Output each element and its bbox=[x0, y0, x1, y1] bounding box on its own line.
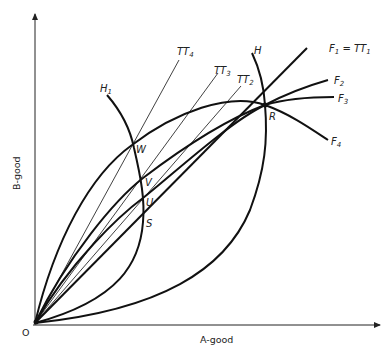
h-label: H bbox=[254, 45, 262, 56]
f2-curve bbox=[35, 80, 328, 323]
point-u-label: U bbox=[146, 197, 154, 208]
h-curve bbox=[35, 53, 266, 323]
origin-label: O bbox=[22, 327, 29, 338]
tt4-label: TT4 bbox=[177, 46, 194, 59]
f3-label: F3 bbox=[338, 93, 348, 106]
f4-curve bbox=[35, 101, 328, 323]
tt3-line bbox=[35, 73, 218, 323]
x-axis-label: A-good bbox=[200, 334, 233, 345]
point-w-label: W bbox=[136, 144, 147, 155]
point-r-dot bbox=[263, 103, 268, 108]
h1-label: H1 bbox=[100, 83, 112, 96]
point-v-label: V bbox=[145, 177, 153, 188]
f3-curve bbox=[35, 97, 334, 323]
diagram-canvas: H1 H TT4 TT3 TT2 F1 = TT1 F2 F3 F4 R W V… bbox=[0, 0, 390, 357]
tt3-label: TT3 bbox=[214, 65, 231, 78]
f4-label: F4 bbox=[331, 136, 341, 149]
point-r-label: R bbox=[269, 111, 276, 122]
f1-tt1-line bbox=[35, 48, 307, 323]
tt2-line bbox=[35, 86, 241, 323]
tt2-label: TT2 bbox=[237, 74, 254, 87]
y-axis-label: B-good bbox=[11, 156, 22, 190]
f1-tt1-label: F1 = TT1 bbox=[329, 43, 371, 56]
f2-label: F2 bbox=[334, 75, 345, 88]
origin-point bbox=[34, 320, 39, 325]
h1-curve bbox=[35, 95, 144, 323]
point-s-label: S bbox=[146, 218, 153, 229]
